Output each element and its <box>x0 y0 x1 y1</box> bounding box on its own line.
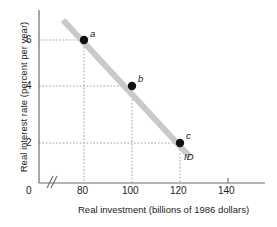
x-tick-label-120: 120 <box>170 186 187 196</box>
axis-lines <box>39 10 265 183</box>
y-tick-label-0: 0 <box>26 186 32 196</box>
x-tick-label-100: 100 <box>122 186 139 196</box>
y-axis-title-wrapper: Real interest rate (percent per year) <box>13 17 31 177</box>
x-tick-label-80: 80 <box>77 186 88 196</box>
point-label-b: b <box>138 74 143 84</box>
point-label-c: c <box>186 131 191 141</box>
x-axis-title: Real investment (billions of 1986 dollar… <box>78 205 249 215</box>
x-axis-break-icon <box>47 176 57 188</box>
point-label-a: a <box>90 29 95 39</box>
data-point-c <box>176 139 184 147</box>
data-point-b <box>128 82 136 90</box>
x-tick-label-140: 140 <box>218 186 235 196</box>
chart-figure: 6 4 2 0 80 100 120 140 a b c ID Real inv… <box>0 0 277 227</box>
y-axis-title: Real interest rate (percent per year) <box>19 22 29 172</box>
curve-label-id: ID <box>184 152 194 162</box>
data-point-a <box>80 36 88 44</box>
grid-lines <box>39 40 180 183</box>
